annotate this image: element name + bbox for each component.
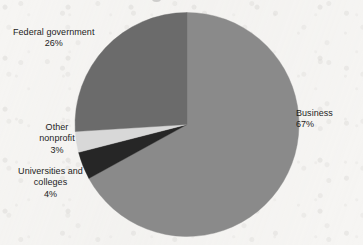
pie-slice-group: [75, 13, 299, 237]
pie-label-business-title: Business: [296, 108, 333, 119]
pie-label-other-nonprofit-percent: 3%: [20, 145, 94, 156]
pie-label-business: Business 67%: [296, 108, 333, 131]
pie-label-universities-and-colleges: Universities and colleges 4%: [3, 166, 98, 200]
pie-label-other-nonprofit: Other nonprofit 3%: [20, 122, 94, 156]
pie-label-business-percent: 67%: [296, 119, 333, 130]
pie-label-universities-line1: Universities and: [3, 166, 98, 177]
pie-label-universities-line2: colleges: [3, 177, 98, 188]
pie-label-federal-government-title: Federal government: [13, 27, 94, 38]
pie-label-other-nonprofit-line1: Other: [20, 122, 94, 133]
pie-chart-page: Business 67% Federal government 26% Othe…: [0, 0, 363, 245]
pie-label-federal-government-percent: 26%: [13, 38, 94, 49]
pie-label-universities-percent: 4%: [3, 189, 98, 200]
pie-label-other-nonprofit-line2: nonprofit: [20, 133, 94, 144]
pie-label-federal-government: Federal government 26%: [13, 27, 94, 50]
